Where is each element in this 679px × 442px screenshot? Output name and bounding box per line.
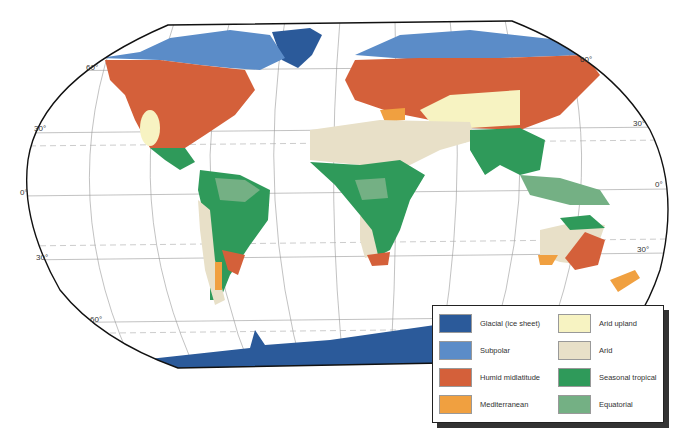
- legend-label: Humid midlatitude: [480, 373, 540, 382]
- latitude-label: 60°: [580, 55, 592, 64]
- legend-swatch: [439, 341, 472, 360]
- legend-swatch: [558, 368, 591, 387]
- legend-label: Seasonal tropical: [599, 373, 657, 382]
- latitude-label: 60°: [90, 315, 102, 324]
- legend-swatch: [558, 341, 591, 360]
- latitude-label: 30°: [36, 253, 48, 262]
- legend-label: Subpolar: [480, 346, 510, 355]
- latitude-label: 30°: [633, 119, 645, 128]
- legend-item: Mediterranean: [439, 395, 528, 414]
- legend-label: Arid: [599, 346, 612, 355]
- legend-label: Arid upland: [599, 319, 637, 328]
- legend-item: Humid midlatitude: [439, 368, 540, 387]
- legend-item: Glacial (ice sheet): [439, 314, 540, 333]
- legend-swatch: [439, 395, 472, 414]
- latitude-label: 30°: [34, 124, 46, 133]
- legend-swatch: [439, 368, 472, 387]
- latitude-label: 60°: [86, 63, 98, 72]
- latitude-label: 30°: [637, 245, 649, 254]
- legend-swatch: [558, 395, 591, 414]
- legend-item: Subpolar: [439, 341, 510, 360]
- latitude-label: 0°: [655, 180, 663, 189]
- legend-label: Equatorial: [599, 400, 633, 409]
- legend-item: Arid upland: [558, 314, 637, 333]
- legend-item: Equatorial: [558, 395, 633, 414]
- legend: Glacial (ice sheet)SubpolarHumid midlati…: [432, 305, 664, 423]
- legend-item: Arid: [558, 341, 612, 360]
- legend-swatch: [439, 314, 472, 333]
- latitude-label: 0°: [20, 188, 28, 197]
- legend-label: Mediterranean: [480, 400, 528, 409]
- legend-swatch: [558, 314, 591, 333]
- legend-item: Seasonal tropical: [558, 368, 657, 387]
- legend-label: Glacial (ice sheet): [480, 319, 540, 328]
